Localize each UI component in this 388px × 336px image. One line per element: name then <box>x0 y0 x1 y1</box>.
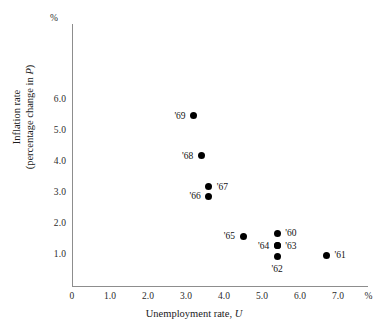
y-axis-title: Inflation rate (percentage change in P) <box>10 27 36 207</box>
x-tick-label: 5.0 <box>249 291 275 301</box>
data-point <box>240 233 247 240</box>
x-axis-line <box>72 286 368 287</box>
plot-area <box>72 18 372 286</box>
data-point-label: '68 <box>182 151 197 161</box>
x-tick-label: 4.0 <box>211 291 237 301</box>
y-tick-label: 4.0 <box>44 156 66 166</box>
data-point <box>274 230 281 237</box>
y-tick-label: 6.0 <box>44 94 66 104</box>
y-tick-label: 2.0 <box>44 218 66 228</box>
data-point-label: '64 <box>258 241 273 251</box>
data-point <box>205 193 212 200</box>
data-point-label: '66 <box>190 191 205 201</box>
y-axis-line <box>72 24 73 287</box>
data-point <box>323 252 330 259</box>
x-tick-label: 3.0 <box>173 291 199 301</box>
x-axis-unit-label: % <box>365 291 373 301</box>
x-tick-label: 2.0 <box>135 291 161 301</box>
y-tick-label: 5.0 <box>44 125 66 135</box>
x-axis-title-text: Unemployment rate, U <box>146 308 243 319</box>
y-axis-unit-label: % <box>50 13 58 23</box>
data-point <box>274 253 281 260</box>
x-tick-label: 6.0 <box>287 291 313 301</box>
data-point <box>198 152 205 159</box>
y-axis-title-line2: (percentage change in P) <box>23 27 36 207</box>
data-point-label: '63 <box>281 241 296 251</box>
data-point-label: '62 <box>272 261 283 274</box>
y-tick-label: 1.0 <box>44 249 66 259</box>
data-point <box>274 242 281 249</box>
x-tick-label: 1.0 <box>97 291 123 301</box>
data-point-label: '61 <box>331 250 346 260</box>
x-tick-label: 7.0 <box>325 291 351 301</box>
phillips-curve-scatter-chart: 1.02.03.04.05.06.0 01.02.03.04.05.06.07.… <box>0 0 388 336</box>
x-axis-title: Unemployment rate, U <box>0 308 388 319</box>
data-point-label: '65 <box>224 231 239 241</box>
data-point-label: '69 <box>174 111 189 121</box>
x-tick-label: 0 <box>59 291 85 301</box>
data-point-label: '60 <box>281 228 296 238</box>
y-axis-title-line1: Inflation rate <box>10 27 23 207</box>
y-tick-label: 3.0 <box>44 187 66 197</box>
data-point-label: '67 <box>213 182 228 192</box>
